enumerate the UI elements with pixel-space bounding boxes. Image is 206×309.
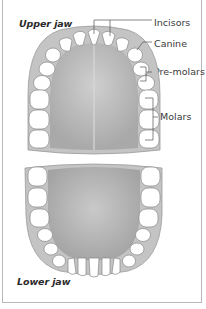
lower-jaw <box>25 164 162 277</box>
jaw-illustration <box>0 0 206 309</box>
